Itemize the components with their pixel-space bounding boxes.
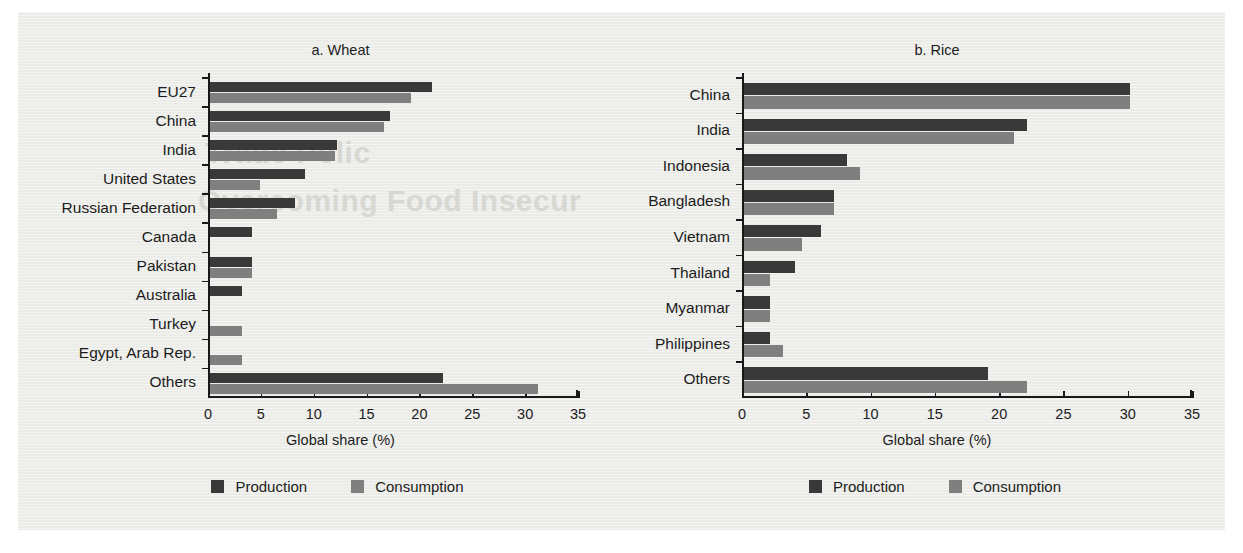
bar-consumption-china bbox=[210, 122, 384, 132]
x-axis-tick-label: 0 bbox=[204, 406, 212, 422]
y-axis-tick bbox=[736, 219, 744, 221]
bar-group: Australia bbox=[210, 282, 578, 311]
category-label-australia: Australia bbox=[136, 286, 196, 304]
legend-wheat: ProductionConsumption bbox=[18, 478, 621, 495]
y-axis-tick bbox=[202, 193, 210, 195]
x-axis-tick bbox=[1192, 391, 1194, 398]
category-label-eu27: EU27 bbox=[157, 83, 196, 101]
bar-production-australia bbox=[210, 286, 242, 296]
x-axis-tick-label: 15 bbox=[358, 406, 374, 422]
x-axis-tick-label: 20 bbox=[991, 406, 1007, 422]
category-label-india: India bbox=[696, 121, 730, 139]
bar-group: China bbox=[210, 107, 578, 136]
bar-group: Bangladesh bbox=[744, 185, 1192, 221]
x-axis-title-wheat: Global share (%) bbox=[18, 432, 621, 448]
category-label-thailand: Thailand bbox=[671, 264, 730, 282]
y-axis-tick bbox=[736, 255, 744, 257]
bar-group: Canada bbox=[210, 223, 578, 252]
legend-entry-production: Production bbox=[809, 478, 905, 495]
category-label-china: China bbox=[690, 86, 731, 104]
y-axis-tick bbox=[202, 135, 210, 137]
category-label-bangladesh: Bangladesh bbox=[648, 192, 730, 210]
bar-group: Others bbox=[210, 369, 578, 398]
bar-group: United States bbox=[210, 165, 578, 194]
x-axis-tick-label: 35 bbox=[570, 406, 586, 422]
bar-group: Myanmar bbox=[744, 291, 1192, 327]
y-axis-tick bbox=[736, 113, 744, 115]
x-axis-tick-label: 25 bbox=[464, 406, 480, 422]
bar-production-thailand bbox=[744, 261, 795, 273]
y-axis-tick bbox=[202, 164, 210, 166]
x-axis-tick-label: 15 bbox=[927, 406, 943, 422]
x-axis-tick-label: 0 bbox=[738, 406, 746, 422]
bar-group: Turkey bbox=[210, 311, 578, 340]
x-axis-tick-label: 20 bbox=[411, 406, 427, 422]
category-label-china: China bbox=[156, 112, 197, 130]
bar-group: India bbox=[210, 136, 578, 165]
category-label-pakistan: Pakistan bbox=[137, 257, 196, 275]
bar-group: India bbox=[744, 114, 1192, 150]
bar-consumption-russian-federation bbox=[210, 209, 277, 219]
x-axis-tick-label: 35 bbox=[1184, 406, 1200, 422]
category-label-india: India bbox=[162, 141, 196, 159]
y-axis-tick bbox=[202, 368, 210, 370]
bar-production-others bbox=[744, 367, 988, 379]
bar-group: Philippines bbox=[744, 327, 1192, 363]
category-label-united-states: United States bbox=[103, 170, 196, 188]
legend-label-production: Production bbox=[235, 478, 307, 495]
bar-production-china bbox=[210, 111, 390, 121]
y-axis-tick bbox=[736, 290, 744, 292]
chart-panel-wheat: a. Wheat 05101520253035EU27ChinaIndiaUni… bbox=[18, 20, 621, 520]
bar-consumption-thailand bbox=[744, 274, 770, 286]
bar-group: Indonesia bbox=[744, 149, 1192, 185]
bar-consumption-eu27 bbox=[210, 93, 411, 103]
x-axis-tick bbox=[578, 391, 580, 398]
legend-entry-production: Production bbox=[211, 478, 307, 495]
x-axis-tick-label: 30 bbox=[517, 406, 533, 422]
bar-production-philippines bbox=[744, 332, 770, 344]
bar-consumption-myanmar bbox=[744, 310, 770, 322]
bar-production-china bbox=[744, 83, 1130, 95]
category-label-egypt-arab-rep: Egypt, Arab Rep. bbox=[79, 344, 196, 362]
y-axis-tick bbox=[736, 184, 744, 186]
category-label-vietnam: Vietnam bbox=[673, 228, 730, 246]
bar-group: EU27 bbox=[210, 78, 578, 107]
bar-production-myanmar bbox=[744, 296, 770, 308]
bar-consumption-pakistan bbox=[210, 268, 252, 278]
bar-group: China bbox=[744, 78, 1192, 114]
bar-consumption-turkey bbox=[210, 326, 242, 336]
bar-consumption-egypt-arab-rep bbox=[210, 355, 242, 365]
y-axis-tick bbox=[736, 326, 744, 328]
y-axis-tick bbox=[202, 222, 210, 224]
bar-consumption-bangladesh bbox=[744, 203, 834, 215]
category-label-others: Others bbox=[149, 373, 196, 391]
category-label-philippines: Philippines bbox=[655, 335, 730, 353]
bar-production-vietnam bbox=[744, 225, 821, 237]
category-label-canada: Canada bbox=[142, 228, 196, 246]
chart-title-rice: b. Rice bbox=[621, 42, 1225, 58]
plot-area-rice: 05101520253035ChinaIndiaIndonesiaBanglad… bbox=[742, 78, 1192, 398]
bar-consumption-philippines bbox=[744, 345, 783, 357]
bar-consumption-united-states bbox=[210, 180, 260, 190]
bar-consumption-india bbox=[210, 151, 335, 161]
bar-production-india bbox=[210, 140, 337, 150]
bar-production-united-states bbox=[210, 169, 305, 179]
y-axis-tick bbox=[202, 252, 210, 254]
legend-label-production: Production bbox=[833, 478, 905, 495]
legend-label-consumption: Consumption bbox=[375, 478, 463, 495]
bar-group: Pakistan bbox=[210, 253, 578, 282]
category-label-russian-federation: Russian Federation bbox=[62, 199, 196, 217]
legend-rice: ProductionConsumption bbox=[621, 478, 1225, 495]
category-label-turkey: Turkey bbox=[149, 315, 196, 333]
chart-title-wheat: a. Wheat bbox=[18, 42, 621, 58]
x-axis-tick-label: 5 bbox=[802, 406, 810, 422]
bar-consumption-indonesia bbox=[744, 167, 860, 179]
bar-production-bangladesh bbox=[744, 190, 834, 202]
bar-production-pakistan bbox=[210, 257, 252, 267]
legend-label-consumption: Consumption bbox=[973, 478, 1061, 495]
x-axis-tick-label: 30 bbox=[1120, 406, 1136, 422]
plot-area-wheat: 05101520253035EU27ChinaIndiaUnited State… bbox=[208, 78, 578, 398]
bar-consumption-india bbox=[744, 132, 1014, 144]
bar-consumption-vietnam bbox=[744, 238, 802, 250]
bar-production-india bbox=[744, 119, 1027, 131]
